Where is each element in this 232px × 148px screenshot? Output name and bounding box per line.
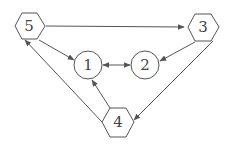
edge-5-to-1 [39, 40, 74, 60]
node-4: 4 [102, 108, 134, 137]
node-label: 5 [24, 17, 34, 35]
node-1: 1 [74, 51, 102, 79]
node-label: 4 [113, 113, 123, 131]
node-5: 5 [15, 13, 45, 39]
node-3: 3 [188, 14, 219, 41]
node-label: 1 [83, 56, 93, 74]
edge-3-to-2 [160, 42, 195, 61]
node-label: 2 [140, 56, 150, 74]
edge-5-to-3 [46, 26, 184, 27]
node-2: 2 [131, 51, 159, 79]
node-label: 3 [198, 18, 208, 36]
graph-canvas: 5 3 4 1 2 [0, 0, 232, 148]
edge-4-to-1 [92, 80, 110, 108]
